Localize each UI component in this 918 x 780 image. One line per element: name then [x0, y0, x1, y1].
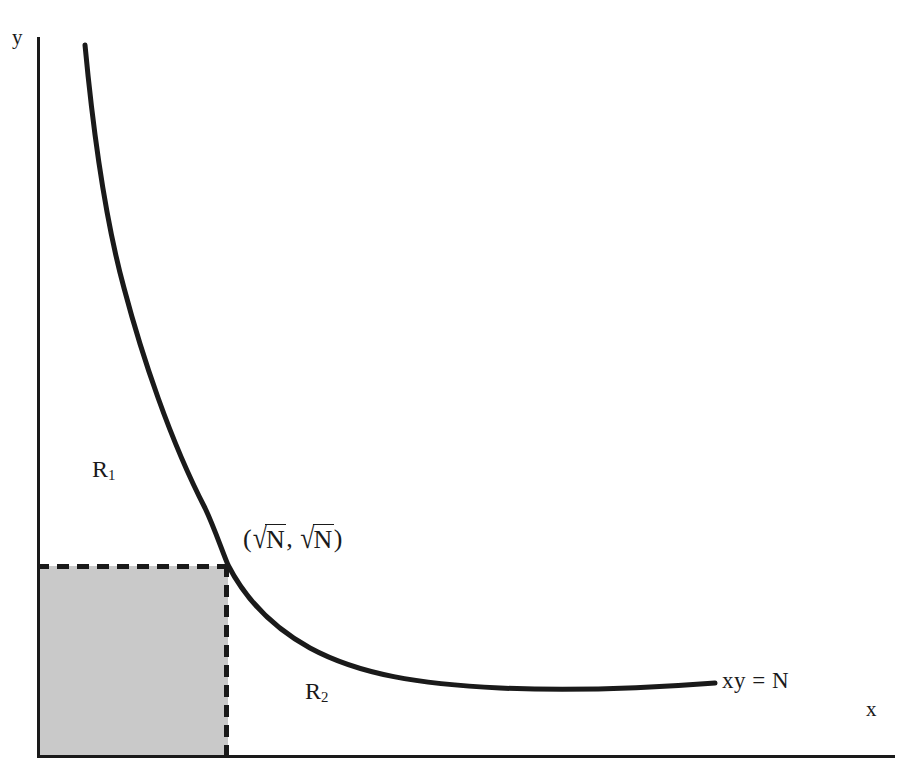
x-axis-label: x [866, 697, 877, 722]
region-r1-letter: R [92, 456, 108, 482]
region-label-r1: R1 [92, 456, 115, 484]
figure-canvas [0, 0, 918, 780]
radicand-n-second: N [313, 524, 334, 555]
point-separator: , [286, 524, 299, 553]
point-close-paren: ) [334, 524, 343, 553]
point-open-paren: ( [243, 524, 252, 553]
region-label-r2: R2 [305, 678, 328, 706]
hyperbola-figure: y x R1 R2 xy = N (√N, √N) [0, 0, 918, 780]
sqrt-n-first: √N [252, 523, 287, 554]
y-axis-label: y [12, 25, 23, 50]
shaded-square [38, 566, 228, 757]
radicand-n-first: N [265, 524, 286, 555]
sqrt-n-second: √N [299, 523, 334, 554]
curve-equation-label: xy = N [722, 668, 789, 694]
region-r1-subscript: 1 [108, 467, 115, 483]
region-r2-letter: R [305, 678, 321, 704]
intersection-point-label: (√N, √N) [243, 523, 342, 554]
region-r2-subscript: 2 [321, 689, 328, 705]
